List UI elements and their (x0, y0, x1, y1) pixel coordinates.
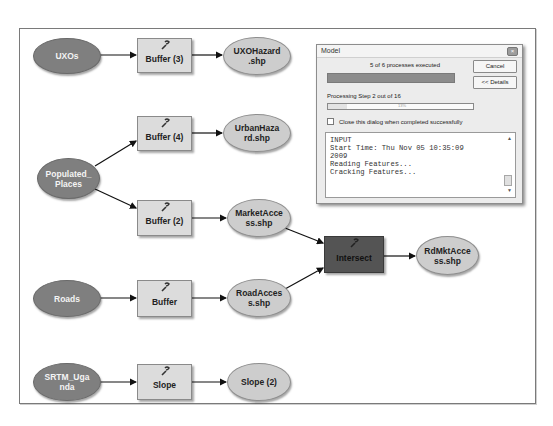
model-progress-dialog: Model × 5 of 6 processes executed Cancel… (316, 44, 523, 204)
step-progress-percent: 13% (398, 103, 406, 108)
details-button[interactable]: << Details (473, 76, 517, 89)
node-roads[interactable]: Roads (33, 280, 101, 317)
node-label: Slope (153, 380, 176, 390)
tool-slope[interactable]: Slope (137, 364, 192, 400)
node-label: RoadAcces s.shp (236, 288, 282, 308)
log-line: INPUT (330, 136, 511, 144)
node-srtm-uganda[interactable]: SRTM_Uga nda (33, 363, 101, 401)
node-label: Buffer (152, 297, 177, 307)
tool-intersect[interactable]: Intersect (324, 236, 384, 273)
details-log[interactable]: INPUT Start Time: Thu Nov 05 10:35:09 20… (325, 132, 516, 198)
node-populated-places[interactable]: Populated_ Places (37, 158, 100, 199)
checkbox-label: Close this dialog when completed success… (339, 119, 462, 125)
output-uxohazard[interactable]: UXOHazard .shp (223, 37, 291, 75)
close-when-complete-checkbox[interactable]: Close this dialog when completed success… (327, 118, 462, 125)
tool-buffer[interactable]: Buffer (137, 280, 192, 317)
checkbox-box[interactable] (327, 118, 334, 125)
node-label: Slope (2) (241, 377, 277, 387)
output-rdmktaccess[interactable]: RdMktAcce ss.shp (416, 236, 479, 275)
node-label: Roads (54, 294, 80, 304)
log-line: Start Time: Thu Nov 05 10:35:09 (330, 144, 511, 152)
scrollbar-thumb[interactable] (504, 175, 512, 186)
dialog-titlebar[interactable]: Model × (317, 45, 522, 58)
tool-buffer-4[interactable]: Buffer (4) (137, 116, 192, 151)
node-label: RdMktAcce ss.shp (424, 246, 472, 266)
scroll-down-arrow-icon[interactable]: ▼ (508, 187, 511, 195)
node-label: MarketAcce ss.shp (235, 208, 283, 228)
overall-progress-bar (327, 73, 455, 83)
scroll-up-arrow-icon[interactable]: ▲ (508, 135, 511, 143)
step-progress-fill (328, 104, 347, 109)
output-marketaccess[interactable]: MarketAcce ss.shp (227, 199, 291, 237)
node-label: Buffer (4) (146, 132, 184, 142)
output-roadaccess[interactable]: RoadAcces s.shp (227, 279, 291, 317)
node-label: Buffer (2) (146, 216, 184, 226)
cancel-button[interactable]: Cancel (473, 60, 517, 73)
close-icon[interactable]: × (507, 47, 518, 56)
wrench-icon (160, 282, 170, 292)
tool-buffer-2[interactable]: Buffer (2) (137, 200, 192, 236)
node-label: UrbanHaza rd.shp (234, 123, 280, 143)
step-progress-bar: 13% (327, 103, 474, 110)
tool-buffer-3[interactable]: Buffer (3) (137, 38, 192, 73)
node-uxos[interactable]: UXOs (33, 38, 101, 74)
output-urbanhazard[interactable]: UrbanHaza rd.shp (223, 114, 291, 152)
log-line: Reading Features... (330, 160, 511, 168)
log-line: Cracking Features... (330, 168, 511, 176)
node-label: UXOHazard .shp (233, 46, 281, 66)
wrench-icon (160, 40, 170, 50)
wrench-icon (160, 202, 170, 212)
dialog-title: Model (321, 47, 340, 54)
node-label: UXOs (55, 51, 78, 61)
output-slope-2[interactable]: Slope (2) (227, 363, 291, 401)
node-label: Buffer (3) (146, 54, 184, 64)
node-label: Populated_ Places (45, 169, 93, 189)
process-status-text: 5 of 6 processes executed (345, 62, 465, 68)
wrench-icon (160, 366, 170, 376)
node-label: SRTM_Uga nda (44, 372, 90, 392)
wrench-icon (160, 118, 170, 128)
log-line: 2009 (330, 152, 511, 160)
node-label: Intersect (336, 253, 371, 263)
step-status-text: Processing Step 2 out of 16 (327, 93, 401, 99)
wrench-icon (349, 238, 359, 248)
